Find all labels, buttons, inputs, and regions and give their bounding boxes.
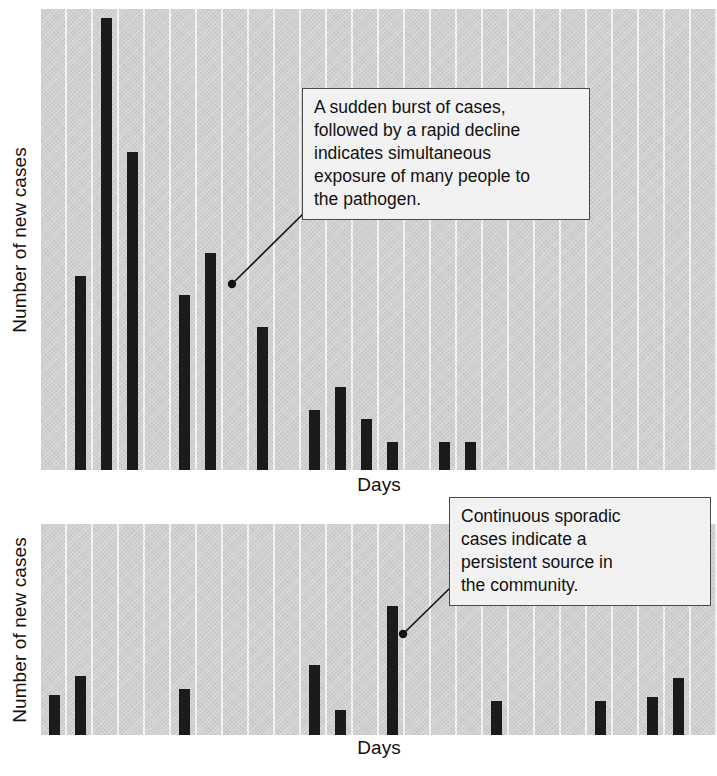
epidemic-curve-figure: Number of new cases Days A sudden burst … — [0, 0, 717, 776]
callout-continuous-source: Continuous sporadic cases indicate a per… — [449, 497, 711, 606]
callout-point-source: A sudden burst of cases, followed by a r… — [302, 88, 590, 220]
